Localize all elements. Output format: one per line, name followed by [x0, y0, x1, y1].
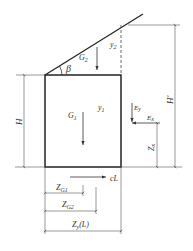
H-label: H [14, 118, 24, 126]
Ex-label: Ex [146, 114, 154, 122]
Ey-label: Ey [133, 104, 141, 112]
H-prime-label: H' [165, 95, 175, 105]
cL-label: cL [110, 174, 119, 183]
beta-angle-arc [59, 66, 62, 75]
ZG1-label: ZG1 [56, 183, 68, 193]
G1-label: G1 [68, 111, 77, 121]
G2-label: G2 [79, 53, 88, 63]
beta-label: β [65, 63, 71, 74]
ZG2-label: ZG2 [62, 200, 74, 210]
Zx-label: Zx [147, 144, 156, 151]
y2-label: y2 [109, 40, 117, 50]
ZyL-label: Zy(L) [72, 220, 89, 230]
y1-label: y1 [97, 103, 105, 113]
retaining-wall-diagram: β G2 y2 G1 y1 H H' Ey Ex Zx cL ZG1 ZG2 Z… [0, 0, 193, 251]
